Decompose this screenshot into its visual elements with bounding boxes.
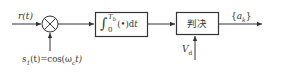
output-label: {ak} bbox=[231, 12, 251, 21]
decision-label: 判决 bbox=[187, 19, 207, 29]
carrier-rest: (t)=cos(ω bbox=[30, 54, 72, 64]
lower-limit: 0 bbox=[108, 27, 112, 34]
input-label: r(t) bbox=[18, 12, 33, 21]
integrator-expression: ∫ Tb 0 (•)dt bbox=[100, 14, 131, 28]
threshold-label: Vd bbox=[182, 45, 192, 54]
multiplier-icon bbox=[42, 16, 58, 32]
integrand: (•)dt bbox=[117, 19, 138, 29]
threshold-sub: d bbox=[189, 49, 193, 56]
integral-symbol: ∫ bbox=[100, 15, 107, 31]
upper-limit: Tb bbox=[108, 14, 116, 21]
carrier-label: s1(t)=cos(ωct) bbox=[22, 55, 82, 64]
input-label-arg: (t) bbox=[22, 11, 33, 21]
carrier-end: t) bbox=[75, 54, 82, 64]
